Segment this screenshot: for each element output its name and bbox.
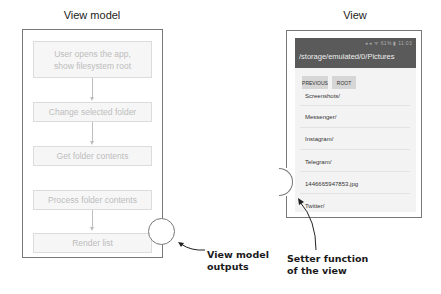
step-line-2: show filesystem root: [54, 60, 131, 72]
curved-arrow-icon: [296, 196, 320, 252]
list-divider: [300, 193, 410, 194]
view-title: View: [305, 9, 405, 21]
list-item-jpg-file[interactable]: 1446665947853.jpg: [305, 181, 358, 187]
flow-arrow-line: [92, 78, 93, 98]
step-process-folder-contents: Process folder contents: [33, 190, 152, 210]
setter-function-label: Setter function of the view: [287, 253, 368, 277]
arrow-down-icon: [90, 141, 94, 145]
list-item-instagram[interactable]: Instagram/: [305, 136, 333, 142]
arrow-down-icon: [90, 227, 94, 231]
current-path-title: /storage/emulated/0/Pictures: [299, 52, 394, 61]
step-user-opens-app: User opens the app, show filesystem root: [33, 41, 152, 78]
list-item-telegram[interactable]: Telegram/: [305, 159, 331, 165]
previous-button[interactable]: PREVIOUS: [302, 76, 328, 89]
output-port-circle: [148, 218, 175, 245]
arrow-down-icon: [90, 97, 94, 101]
status-bar: ◂◂ ᯤ 61% ▮ 11:03: [365, 40, 412, 46]
flow-arrow-line: [92, 210, 93, 228]
label-line-2: of the view: [287, 265, 368, 277]
curved-arrow-icon: [175, 240, 207, 256]
label-line-1: Setter function: [287, 253, 368, 265]
list-divider: [300, 149, 410, 150]
root-button[interactable]: ROOT: [332, 76, 356, 89]
list-divider: [300, 127, 410, 128]
flow-arrow-line: [92, 122, 93, 142]
step-render-list: Render list: [33, 233, 152, 253]
view-model-outputs-label: View model outputs: [207, 249, 269, 273]
list-item-messenger[interactable]: Messenger/: [305, 114, 336, 120]
step-line-1: User opens the app,: [54, 48, 131, 60]
app-bar: ◂◂ ᯤ 61% ▮ 11:03 /storage/emulated/0/Pic…: [295, 38, 416, 68]
list-divider: [300, 171, 410, 172]
step-get-folder-contents: Get folder contents: [33, 146, 152, 166]
list-divider: [300, 105, 410, 106]
view-model-title: View model: [42, 9, 142, 21]
label-line-2: outputs: [207, 261, 269, 273]
step-change-folder: Change selected folder: [33, 102, 152, 122]
label-line-1: View model: [207, 249, 269, 261]
list-item-screenshots[interactable]: Screenshots/: [305, 93, 340, 99]
